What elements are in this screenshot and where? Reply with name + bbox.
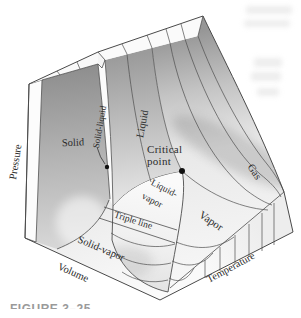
region-label-solid: Solid (62, 137, 85, 148)
critical-point-dot (179, 168, 185, 174)
solid-liquid-leader-dot (105, 165, 109, 169)
caption-crop-mask (0, 309, 135, 318)
critical-point-label-line2: point (147, 156, 171, 167)
critical-point-label-line1: Critical (147, 144, 182, 155)
pvt-phase-diagram-figure: Pressure Solid Solid-liquid Liquid Criti… (0, 0, 301, 318)
